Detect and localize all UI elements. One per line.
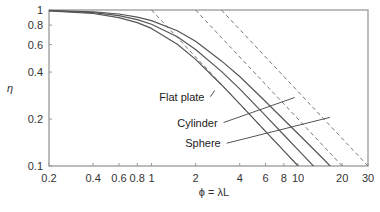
annotation-cylinder: Cylinder <box>177 117 218 129</box>
x-tick-label: 0.6 <box>111 172 126 184</box>
efficiency-chart: 0.20.40.60.812468102030 0.10.20.40.60.81… <box>0 0 380 212</box>
x-tick-label: 1 <box>148 172 154 184</box>
curve-cylinder <box>49 11 342 197</box>
x-tick-label: 4 <box>237 172 243 184</box>
x-tick-label: 2 <box>193 172 199 184</box>
x-tick-label: 30 <box>362 172 374 184</box>
annotation-pointer <box>224 97 295 122</box>
asymptote-lines <box>152 10 369 166</box>
y-axis-label: η <box>7 82 13 94</box>
annotation-flat: Flat plate <box>159 91 204 103</box>
y-tick-label: 1 <box>37 4 43 16</box>
y-tick-label: 0.1 <box>28 160 43 172</box>
x-tick-label: 6 <box>262 172 268 184</box>
x-tick-label: 10 <box>292 172 304 184</box>
x-tick-label: 0.8 <box>130 172 145 184</box>
y-tick-label: 0.6 <box>28 39 43 51</box>
asymptote-line-sphere <box>221 10 368 166</box>
annotation-sphere: Sphere <box>185 137 220 149</box>
y-tick-label: 0.8 <box>28 19 43 31</box>
annotation-pointer <box>210 90 214 96</box>
annotation-pointer <box>227 117 330 143</box>
x-tick-label: 0.4 <box>85 172 100 184</box>
y-tick-label: 0.4 <box>28 66 43 78</box>
y-tick-label: 0.2 <box>28 113 43 125</box>
x-tick-label: 8 <box>281 172 287 184</box>
x-axis-label: ϕ = λL <box>199 186 229 198</box>
x-tick-label: 0.2 <box>41 172 56 184</box>
x-tick-label: 20 <box>336 172 348 184</box>
curve-flat <box>49 11 298 166</box>
